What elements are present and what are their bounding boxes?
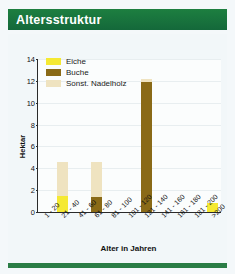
legend-label: Sonst. Nadelholz	[66, 79, 126, 88]
chart-legend: EicheBucheSonst. Nadelholz	[46, 56, 126, 88]
y-axis-tick-label: 4	[31, 164, 35, 173]
legend-swatch-icon	[46, 80, 61, 87]
y-axis-tick-label: 6	[31, 142, 35, 151]
y-axis-tick-label: 12	[27, 76, 35, 85]
legend-item: Buche	[46, 67, 126, 77]
bottom-rule	[8, 263, 227, 268]
y-axis-tick-mark	[36, 212, 38, 213]
y-axis-tick-label: 0	[31, 208, 35, 217]
legend-item: Eiche	[46, 56, 126, 66]
chart-page: Altersstruktur Hektar EicheBucheSonst. N…	[0, 0, 235, 274]
y-axis-tick-label: 8	[31, 120, 35, 129]
bar	[141, 79, 152, 212]
y-axis-tick-label: 10	[27, 98, 35, 107]
legend-swatch-icon	[46, 58, 61, 65]
bar-segment	[91, 162, 102, 197]
chart-card: Hektar EicheBucheSonst. Nadelholz 024681…	[8, 34, 227, 262]
bar-segment	[57, 162, 68, 196]
y-axis-title: Hektar	[18, 117, 27, 177]
y-axis-tick-label: 2	[31, 186, 35, 195]
legend-item: Sonst. Nadelholz	[46, 78, 126, 88]
legend-label: Eiche	[66, 57, 86, 66]
legend-label: Buche	[66, 68, 89, 77]
title-banner: Altersstruktur	[8, 9, 227, 30]
legend-swatch-icon	[46, 69, 61, 76]
y-axis-tick-label: 14	[27, 55, 35, 64]
page-title: Altersstruktur	[8, 13, 101, 27]
bar-segment	[141, 82, 152, 212]
x-axis-title: Alter in Jahren	[37, 244, 220, 253]
chart-plot-wrapper: Hektar EicheBucheSonst. Nadelholz 024681…	[8, 34, 227, 262]
